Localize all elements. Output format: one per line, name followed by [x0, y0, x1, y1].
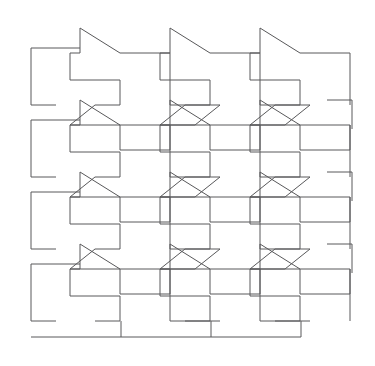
houndstooth-tile [70, 244, 220, 321]
figure-canvas [0, 0, 375, 366]
houndstooth-pattern [0, 0, 375, 366]
houndstooth-tile [160, 28, 310, 150]
houndstooth-tile [250, 172, 350, 294]
houndstooth-tile [160, 172, 310, 294]
houndstooth-tile [70, 28, 220, 150]
houndstooth-tile [70, 100, 220, 222]
houndstooth-tile [250, 28, 350, 150]
houndstooth-tile [250, 100, 350, 222]
houndstooth-tile [160, 100, 310, 222]
houndstooth-tile [160, 244, 310, 321]
houndstooth-tile [70, 172, 220, 294]
tile-group [31, 28, 352, 337]
